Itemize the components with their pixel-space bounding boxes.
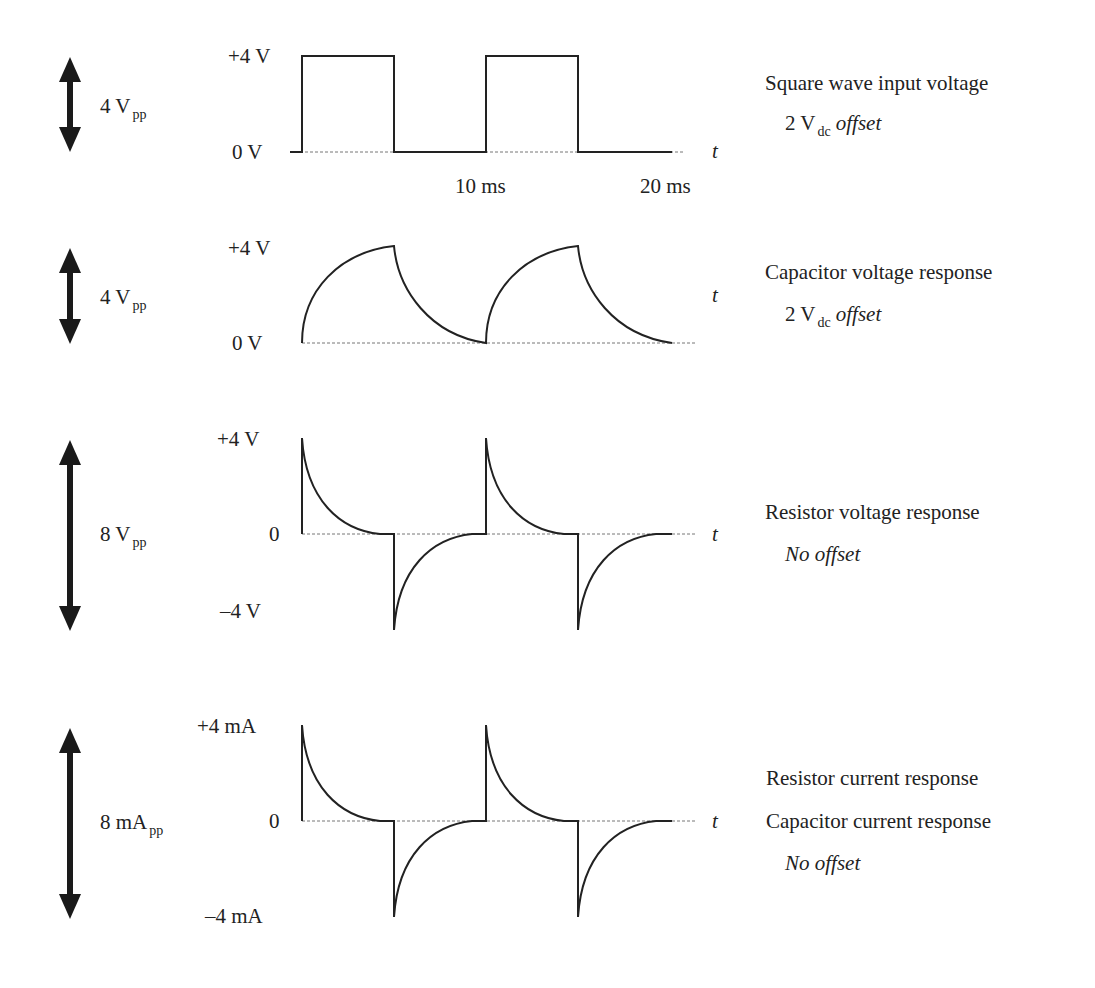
time-axis-symbol: t [712,139,719,163]
span-label: 4 Vpp [100,94,147,122]
y-label-top: +4 V [228,44,270,68]
rc-response-diagram: 4 Vpp +4 V 0 V t 10 ms 20 ms Square wave… [0,0,1095,988]
panel-title: Capacitor voltage response [765,260,992,284]
panel-current: 8 mApp +4 mA 0 –4 mA t Resistor current … [59,714,991,928]
panel-title: Square wave input voltage [765,71,988,95]
y-label-zero: 0 V [232,331,263,355]
panel-title-secondary: Capacitor current response [766,809,991,833]
y-label-bottom: –4 V [219,599,261,623]
double-arrow-icon [59,248,81,344]
panel-title: Resistor voltage response [765,500,980,524]
capacitor-voltage-waveform [302,246,672,343]
span-label: 4 Vpp [100,285,147,313]
y-label-zero: 0 [269,809,280,833]
offset-label: 2 Vdcoffset [785,111,882,139]
panel-input: 4 Vpp +4 V 0 V t 10 ms 20 ms Square wave… [59,44,988,198]
offset-label: No offset [784,542,861,566]
double-arrow-icon [59,440,81,631]
time-axis-symbol: t [712,522,719,546]
y-label-top: +4 mA [197,714,257,738]
square-waveform [290,56,672,152]
panel-resistor-voltage: 8 Vpp +4 V 0 –4 V t Resistor voltage res… [59,427,980,631]
time-axis-symbol: t [712,809,719,833]
span-label: 8 Vpp [100,522,147,550]
double-arrow-icon [59,728,81,919]
offset-label: No offset [784,851,861,875]
double-arrow-icon [59,57,81,152]
tick-label-20ms: 20 ms [640,174,691,198]
panel-title: Resistor current response [766,766,978,790]
y-label-zero: 0 [269,522,280,546]
y-label-top: +4 V [217,427,259,451]
span-label: 8 mApp [100,810,163,838]
time-axis-symbol: t [712,283,719,307]
y-label-top: +4 V [228,236,270,260]
y-label-zero: 0 V [232,140,263,164]
tick-label-10ms: 10 ms [455,174,506,198]
panel-capacitor-voltage: 4 Vpp +4 V 0 V t Capacitor voltage respo… [59,236,992,355]
y-label-bottom: –4 mA [204,904,264,928]
offset-label: 2 Vdcoffset [785,302,882,330]
